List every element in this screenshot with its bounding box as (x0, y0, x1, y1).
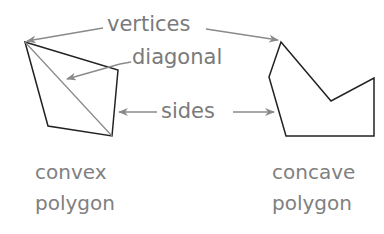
concave-caption: concave polygon (272, 160, 355, 215)
concave-polygon (269, 42, 374, 136)
vertices-arrow-right (206, 29, 278, 40)
convex-caption-line1: convex (35, 160, 115, 184)
concave-caption-line2: polygon (272, 191, 355, 215)
convex-caption-line2: polygon (35, 191, 115, 215)
convex-polygon (25, 42, 118, 136)
diagonal-label: diagonal (132, 47, 222, 68)
sides-label: sides (161, 101, 215, 122)
concave-caption-line1: concave (272, 160, 355, 184)
convex-caption: convex polygon (35, 160, 115, 215)
vertices-label: vertices (107, 14, 190, 35)
vertices-arrow-left (27, 28, 103, 41)
